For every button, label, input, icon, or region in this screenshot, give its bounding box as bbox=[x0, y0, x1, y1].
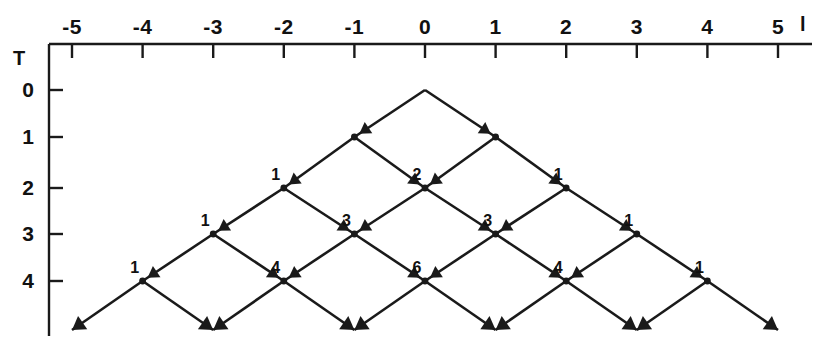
lattice-node bbox=[563, 185, 570, 192]
node-count-label: 1 bbox=[554, 167, 563, 183]
lattice-node bbox=[422, 278, 429, 285]
x-tick-label: 0 bbox=[419, 16, 431, 37]
edge-arrowhead bbox=[72, 316, 87, 330]
node-count-label: 4 bbox=[271, 260, 280, 276]
random-walk-lattice-figure: l T -5-4-3-2-1012345 01234 121133114641 bbox=[0, 0, 828, 350]
lattice-node bbox=[563, 278, 570, 285]
lattice-node bbox=[280, 278, 287, 285]
x-tick-label: -4 bbox=[133, 16, 153, 37]
lattice-node bbox=[351, 231, 358, 238]
lattice-node bbox=[422, 185, 429, 192]
lattice-node bbox=[139, 278, 146, 285]
t-axis-label: T bbox=[13, 48, 25, 68]
node-count-label: 1 bbox=[271, 167, 280, 183]
edge-arrowhead bbox=[289, 172, 302, 184]
edge-arrowhead bbox=[622, 316, 637, 330]
edge-arrowhead bbox=[637, 316, 652, 330]
node-count-label: 4 bbox=[554, 260, 563, 276]
edge-arrowhead bbox=[480, 316, 495, 330]
node-count-label: 2 bbox=[413, 167, 422, 183]
x-tick-label: -1 bbox=[345, 16, 365, 37]
lattice-node bbox=[704, 278, 711, 285]
edge-arrowhead bbox=[213, 316, 228, 330]
lattice-node bbox=[210, 231, 217, 238]
t-tick-label: 3 bbox=[22, 223, 34, 244]
x-tick-label: 5 bbox=[772, 16, 784, 37]
edge-arrowhead bbox=[430, 172, 443, 184]
lattice-node bbox=[633, 231, 640, 238]
lattice-node bbox=[492, 134, 499, 141]
edge-arrowhead bbox=[339, 316, 354, 330]
lattice-node bbox=[492, 231, 499, 238]
x-tick-label: 2 bbox=[560, 16, 572, 37]
x-tick-label: -3 bbox=[203, 16, 223, 37]
t-tick-label: 4 bbox=[22, 270, 34, 291]
lattice-node bbox=[280, 185, 287, 192]
node-count-label: 1 bbox=[624, 213, 633, 229]
x-tick-label: 4 bbox=[701, 16, 713, 37]
node-count-label: 3 bbox=[483, 213, 492, 229]
edge-arrowhead bbox=[354, 316, 369, 330]
t-tick-label: 1 bbox=[22, 126, 34, 147]
lattice-node bbox=[351, 134, 358, 141]
node-count-label: 1 bbox=[201, 213, 210, 229]
x-tick-label: 3 bbox=[631, 16, 643, 37]
edge-arrowhead bbox=[198, 316, 213, 330]
edge-arrowhead bbox=[763, 316, 778, 330]
node-count-label: 1 bbox=[695, 260, 704, 276]
t-tick-label: 2 bbox=[22, 177, 34, 198]
node-count-label: 1 bbox=[130, 260, 139, 276]
x-tick-label: -2 bbox=[274, 16, 294, 37]
x-tick-label: -5 bbox=[62, 16, 82, 37]
node-count-label: 3 bbox=[342, 213, 351, 229]
node-count-label: 6 bbox=[413, 260, 422, 276]
edge-arrowhead bbox=[496, 316, 511, 330]
t-tick-label: 0 bbox=[22, 79, 34, 100]
x-axis-label: l bbox=[800, 14, 806, 34]
x-tick-label: 1 bbox=[490, 16, 502, 37]
